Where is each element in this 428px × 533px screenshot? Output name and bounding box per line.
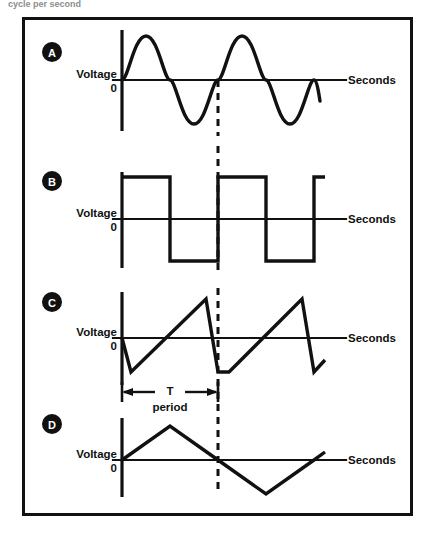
waveform-figure: A Voltage 0 Seconds B Voltage 0 Seconds … <box>0 0 428 533</box>
voltage-label-c: Voltage <box>76 326 117 338</box>
zero-label-c: 0 <box>111 340 117 352</box>
period-arrowhead-left <box>122 388 133 396</box>
period-symbol-label: T <box>166 385 173 397</box>
voltage-label-d: Voltage <box>76 448 117 460</box>
zero-label-d: 0 <box>111 462 117 474</box>
zero-label-b: 0 <box>111 221 117 233</box>
seconds-label-c: Seconds <box>348 332 396 344</box>
period-marker: T period <box>122 382 218 413</box>
zero-label-a: 0 <box>111 82 117 94</box>
period-arrowhead-right <box>207 388 218 396</box>
panel-badge-c-letter: C <box>48 297 56 309</box>
panel-badge-d-letter: D <box>48 419 56 431</box>
sawtooth-waveform <box>122 299 325 372</box>
voltage-label-b: Voltage <box>76 207 117 219</box>
seconds-label-a: Seconds <box>348 74 396 86</box>
period-caption-label: period <box>152 401 187 413</box>
seconds-label-d: Seconds <box>348 454 396 466</box>
voltage-label-a: Voltage <box>76 68 117 80</box>
panel-badge-a-letter: A <box>48 47 56 59</box>
seconds-label-b: Seconds <box>348 213 396 225</box>
panel-badge-b-letter: B <box>48 176 56 188</box>
